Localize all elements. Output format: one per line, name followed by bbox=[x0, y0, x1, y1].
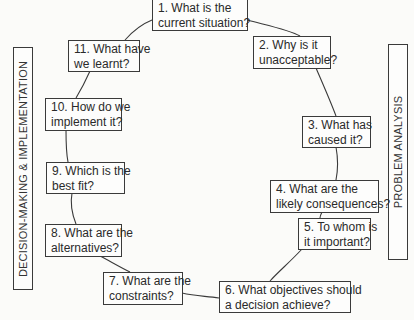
problem-analysis-label: PROBLEM ANALYSIS bbox=[388, 44, 408, 260]
step-10-line1: 10. How do we bbox=[51, 100, 116, 115]
step-3-line2: caused it? bbox=[308, 133, 365, 148]
step-6-box: 6. What objectives should a decision ach… bbox=[219, 281, 351, 313]
step-11-box: 11. What have we learnt? bbox=[68, 40, 140, 72]
side-label-left-text: DECISION-MAKING & IMPLEMENTATION bbox=[17, 60, 29, 276]
step-9-line1: 9. Which is the bbox=[52, 164, 119, 179]
step-8-box: 8. What are the alternatives? bbox=[45, 224, 122, 257]
step-1-box: 1. What is the current situation? bbox=[152, 0, 248, 31]
step-9-line2: best fit? bbox=[52, 179, 119, 194]
cycle-diagram: DECISION-MAKING & IMPLEMENTATION PROBLEM… bbox=[0, 0, 414, 320]
step-4-box: 4. What are the likely consequences? bbox=[270, 180, 379, 213]
step-3-line1: 3. What has bbox=[308, 118, 365, 133]
step-5-box: 5. To whom is it important? bbox=[298, 218, 371, 250]
step-1-line1: 1. What is the bbox=[158, 1, 242, 16]
step-11-line2: we learnt? bbox=[74, 57, 134, 72]
step-7-line1: 7. What are the bbox=[109, 274, 177, 289]
step-4-line2: likely consequences? bbox=[276, 197, 373, 212]
step-3-box: 3. What has caused it? bbox=[302, 116, 371, 148]
step-7-line2: constraints? bbox=[109, 289, 177, 304]
step-2-line2: unacceptable? bbox=[259, 53, 325, 68]
step-6-line2: a decision achieve? bbox=[225, 298, 345, 313]
cycle-connectors bbox=[0, 0, 414, 320]
step-8-line1: 8. What are the bbox=[51, 226, 116, 241]
step-10-line2: implement it? bbox=[51, 115, 116, 130]
side-label-right-text: PROBLEM ANALYSIS bbox=[392, 96, 404, 208]
decision-making-implementation-label: DECISION-MAKING & IMPLEMENTATION bbox=[13, 47, 33, 290]
step-5-line1: 5. To whom is bbox=[304, 220, 365, 235]
step-8-line2: alternatives? bbox=[51, 241, 116, 256]
step-7-box: 7. What are the constraints? bbox=[103, 272, 183, 305]
step-2-line1: 2. Why is it bbox=[259, 38, 325, 53]
step-11-line1: 11. What have bbox=[74, 42, 134, 57]
step-10-box: 10. How do we implement it? bbox=[45, 98, 122, 131]
step-5-line2: it important? bbox=[304, 235, 365, 250]
step-6-line1: 6. What objectives should bbox=[225, 283, 345, 298]
step-2-box: 2. Why is it unacceptable? bbox=[253, 36, 331, 69]
step-9-box: 9. Which is the best fit? bbox=[46, 162, 125, 194]
step-4-line1: 4. What are the bbox=[276, 182, 373, 197]
step-1-line2: current situation? bbox=[158, 16, 242, 31]
